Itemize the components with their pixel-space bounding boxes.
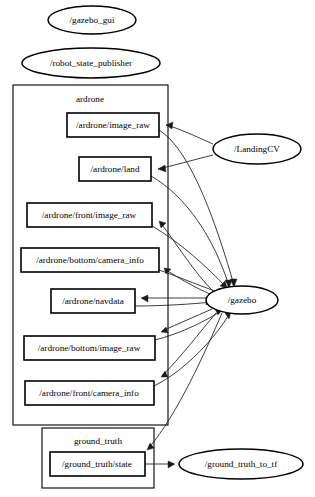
topic-ardrone-land[interactable]: /ardrone/land bbox=[79, 157, 151, 181]
node-ground-truth-to-tf-label: /ground_truth_to_tf bbox=[205, 459, 278, 469]
node-robot-state-publisher-label: /robot_state_publisher bbox=[50, 58, 132, 68]
topic-ground-truth-state-label: /ground_truth/state bbox=[62, 459, 132, 469]
edge-landingcv-to-image-raw bbox=[166, 125, 213, 144]
topic-ardrone-bottom-image-raw-label: /ardrone/bottom/image_raw bbox=[38, 343, 141, 353]
cluster-ardrone-label: ardrone bbox=[76, 94, 104, 104]
node-landingcv[interactable]: /LandingCV bbox=[213, 134, 301, 164]
topic-ground-truth-state[interactable]: /ground_truth/state bbox=[50, 452, 145, 476]
topic-ardrone-land-label: /ardrone/land bbox=[91, 164, 140, 174]
edge-gazebo-to-bottom-camera-info bbox=[165, 269, 210, 294]
cluster-ground-truth-label: ground_truth bbox=[74, 436, 122, 446]
node-gazebo-gui[interactable]: /gazebo_gui bbox=[48, 6, 136, 34]
topic-ardrone-bottom-camera-info-label: /ardrone/bottom/camera_info bbox=[36, 255, 144, 265]
topic-ardrone-image-raw-label: /ardrone/image_raw bbox=[76, 120, 150, 130]
topic-ardrone-navdata-label: /ardrone/navdata bbox=[62, 296, 124, 306]
topic-ardrone-front-camera-info[interactable]: /ardrone/front/camera_info bbox=[25, 381, 154, 405]
node-gazebo[interactable]: /gazebo bbox=[206, 286, 278, 314]
node-ground-truth-to-tf[interactable]: /ground_truth_to_tf bbox=[179, 449, 303, 479]
edge-gt-state-to-gt-to-tf-arrowhead bbox=[168, 461, 175, 468]
edge-gazebo-to-bottom-image-raw bbox=[162, 309, 212, 331]
topic-ardrone-bottom-camera-info[interactable]: /ardrone/bottom/camera_info bbox=[21, 248, 159, 272]
node-landingcv-label: /LandingCV bbox=[234, 144, 280, 154]
topic-ardrone-front-image-raw-label: /ardrone/front/image_raw bbox=[42, 210, 137, 220]
node-gazebo-gui-label: /gazebo_gui bbox=[70, 15, 115, 25]
topic-ardrone-image-raw[interactable]: /ardrone/image_raw bbox=[67, 113, 159, 137]
topic-ardrone-bottom-image-raw[interactable]: /ardrone/bottom/image_raw bbox=[24, 336, 155, 360]
node-gazebo-label: /gazebo bbox=[228, 295, 257, 305]
topic-ardrone-navdata[interactable]: /ardrone/navdata bbox=[51, 289, 135, 313]
ros-node-graph: ardrone ground_truth bbox=[0, 0, 315, 497]
topic-ardrone-front-image-raw[interactable]: /ardrone/front/image_raw bbox=[27, 203, 152, 227]
node-robot-state-publisher[interactable]: /robot_state_publisher bbox=[22, 48, 160, 78]
topic-ardrone-front-camera-info-label: /ardrone/front/camera_info bbox=[39, 388, 139, 398]
